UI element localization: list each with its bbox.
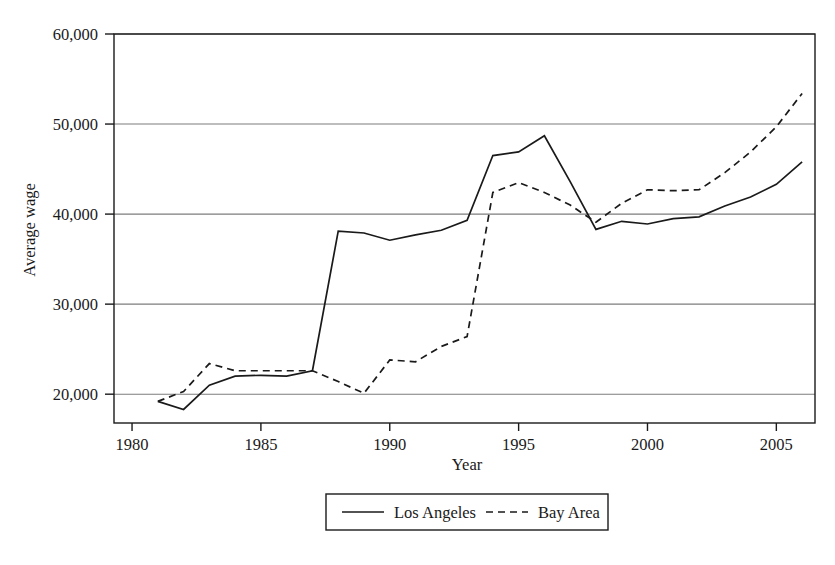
line-chart: 198019851990199520002005 20,00030,00040,… <box>0 0 835 565</box>
x-axis-title: Year <box>452 455 483 474</box>
y-axis-ticks <box>105 34 114 394</box>
chart-canvas: 198019851990199520002005 20,00030,00040,… <box>0 0 835 565</box>
x-tick-label-1995: 1995 <box>502 435 535 454</box>
y-axis-title: Average wage <box>20 183 39 277</box>
series-line-bay-area <box>158 93 802 401</box>
gridlines <box>114 34 815 394</box>
x-axis-tick-labels: 198019851990199520002005 <box>116 435 793 454</box>
x-axis-ticks <box>132 423 776 431</box>
y-axis-tick-labels: 20,00030,00040,00050,00060,000 <box>53 25 98 404</box>
legend-label-bay-area: Bay Area <box>538 503 601 522</box>
y-tick-label-50000: 50,000 <box>53 115 98 134</box>
x-tick-label-1985: 1985 <box>244 435 277 454</box>
y-tick-label-20000: 20,000 <box>53 385 98 404</box>
series-line-los-angeles <box>158 136 802 410</box>
x-tick-label-2005: 2005 <box>760 435 793 454</box>
data-series <box>158 93 802 409</box>
chart-legend: Los AngelesBay Area <box>326 494 608 530</box>
x-tick-label-2000: 2000 <box>631 435 664 454</box>
legend-label-los-angeles: Los Angeles <box>394 503 476 522</box>
y-tick-label-60000: 60,000 <box>53 25 98 44</box>
plot-border <box>114 34 815 423</box>
y-tick-label-30000: 30,000 <box>53 295 98 314</box>
y-tick-label-40000: 40,000 <box>53 205 98 224</box>
x-tick-label-1980: 1980 <box>116 435 149 454</box>
x-tick-label-1990: 1990 <box>373 435 406 454</box>
plot-frame <box>114 34 815 423</box>
